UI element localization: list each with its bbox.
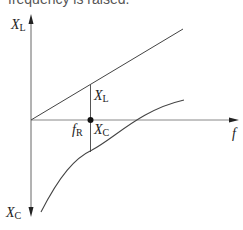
arrow-down-icon [29, 207, 34, 217]
vertical-axis-bottom-label: XC [6, 205, 21, 221]
horizontal-axis-label: f [232, 126, 236, 142]
xl-line [31, 29, 183, 120]
resonance-label: fR [72, 122, 83, 138]
xl-curve-label: XL [94, 88, 109, 104]
reactance-diagram [0, 0, 243, 230]
vertical-axis-top-label: XL [11, 17, 26, 33]
arrow-up-icon [29, 14, 34, 24]
xc-curve-label: XC [94, 122, 109, 138]
arrow-right-icon [229, 118, 239, 123]
xc-curve [41, 100, 184, 212]
resonance-point [88, 117, 94, 123]
